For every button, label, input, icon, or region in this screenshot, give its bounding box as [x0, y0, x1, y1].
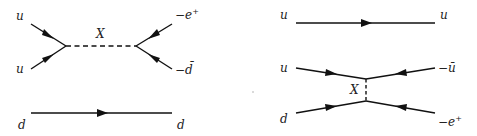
- right-d-in-arrow-icon: [325, 104, 337, 111]
- feynman-diagrams: u u X −e+ −d̄ d d u u u d X −ū −e+: [0, 0, 477, 136]
- right-label-d-in: d: [280, 112, 288, 126]
- left-label-x: X: [95, 27, 105, 41]
- left-label-eplus: −e+: [175, 7, 199, 22]
- left-u-bottom-arrow-icon: [42, 54, 54, 63]
- right-ubar-arrow-icon: [395, 69, 407, 76]
- left-label-u-bottom: u: [16, 62, 24, 76]
- stray-dot: [252, 91, 253, 92]
- right-label-u-spectator-in: u: [280, 8, 288, 22]
- left-u-top-arrow-icon: [42, 29, 54, 39]
- right-eplus-arrow-icon: [395, 104, 407, 111]
- right-label-eplus: −e+: [438, 114, 462, 129]
- left-dbar-arrow-icon: [148, 54, 160, 63]
- right-label-ubar: −ū: [438, 61, 456, 75]
- left-diagram: u u X −e+ −d̄ d d: [16, 7, 199, 132]
- right-diagram: u u u d X −ū −e+: [280, 8, 462, 129]
- right-label-u-spectator-out: u: [440, 8, 448, 22]
- right-u-in-arrow-icon: [325, 69, 337, 76]
- left-label-dbar: −d̄: [175, 61, 195, 77]
- left-label-d-in: d: [18, 118, 26, 132]
- left-eplus-arrow-icon: [148, 29, 160, 39]
- right-label-x: X: [349, 83, 359, 97]
- left-d-spectator-arrow-icon: [97, 109, 108, 117]
- right-label-u-in: u: [280, 61, 288, 75]
- left-label-u-top: u: [16, 9, 24, 23]
- left-label-d-out: d: [177, 118, 185, 132]
- right-u-spectator-arrow-icon: [361, 19, 372, 27]
